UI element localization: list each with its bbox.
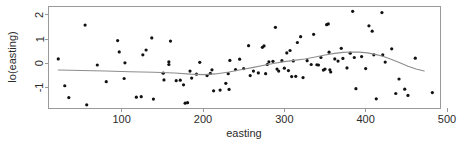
data-point <box>310 63 313 66</box>
data-point <box>323 67 326 70</box>
data-point <box>285 51 288 54</box>
data-point <box>274 26 277 29</box>
loess-smoothing-curve <box>58 52 424 75</box>
data-point <box>144 48 147 51</box>
data-point <box>375 97 378 100</box>
data-point <box>414 57 417 60</box>
data-point <box>67 96 70 99</box>
data-point <box>167 63 170 66</box>
data-point <box>249 74 252 77</box>
data-point <box>267 60 270 63</box>
y-tick-label: 0 <box>34 60 46 66</box>
data-point <box>198 61 201 64</box>
y-tick-label: -1 <box>34 83 46 93</box>
y-tick-label: 2 <box>34 12 46 18</box>
data-point <box>403 88 406 91</box>
data-point <box>306 59 309 62</box>
data-point <box>175 79 178 82</box>
data-point <box>123 77 126 80</box>
data-point <box>327 51 330 54</box>
data-point <box>283 67 286 70</box>
x-tick-label: 500 <box>438 113 456 125</box>
data-point <box>380 11 383 14</box>
data-point <box>85 103 88 106</box>
data-point <box>384 60 387 63</box>
data-point <box>406 94 409 97</box>
data-point <box>182 83 185 86</box>
data-point <box>141 53 144 56</box>
scatter-plot: 100200300400500 -1012 easting lo(easting… <box>0 0 462 143</box>
data-point <box>179 79 182 82</box>
data-point <box>390 47 393 50</box>
data-point <box>312 33 315 36</box>
data-point <box>210 68 213 71</box>
data-point <box>431 91 434 94</box>
data-point <box>341 57 344 60</box>
y-tick-label: 1 <box>34 36 46 42</box>
data-point <box>247 44 250 47</box>
data-point <box>152 97 155 100</box>
data-point <box>116 39 119 42</box>
data-point <box>123 61 126 64</box>
data-point <box>252 69 255 72</box>
data-point <box>296 41 299 44</box>
data-point <box>394 92 397 95</box>
data-point <box>317 63 320 66</box>
data-point <box>150 36 153 39</box>
data-point <box>353 56 356 59</box>
y-axis-ticks: -1012 <box>34 12 49 92</box>
x-tick-label: 300 <box>275 113 293 125</box>
x-tick-label: 100 <box>113 113 131 125</box>
x-axis-ticks: 100200300400500 <box>113 108 457 125</box>
data-point <box>169 39 172 42</box>
data-point <box>333 57 336 60</box>
data-point <box>371 30 374 33</box>
data-point <box>271 60 274 63</box>
chart-page: 100200300400500 -1012 easting lo(easting… <box>0 0 462 143</box>
data-point <box>327 22 330 25</box>
data-point <box>227 88 230 91</box>
data-point <box>190 76 193 79</box>
data-point <box>367 24 370 27</box>
y-axis-label: lo(easting) <box>6 31 18 82</box>
data-point <box>140 95 143 98</box>
data-points <box>57 10 434 107</box>
data-point <box>63 84 66 87</box>
data-point <box>83 24 86 27</box>
data-point <box>219 89 222 92</box>
data-point <box>277 69 280 72</box>
data-point <box>212 89 215 92</box>
data-point <box>397 77 400 80</box>
data-point <box>345 66 348 69</box>
data-point <box>105 80 108 83</box>
data-point <box>228 59 231 62</box>
x-axis-label: easting <box>226 127 261 139</box>
data-point <box>299 35 302 38</box>
data-point <box>135 96 138 99</box>
data-point <box>188 69 191 72</box>
data-point <box>364 67 367 70</box>
x-tick-label: 400 <box>356 113 374 125</box>
data-point <box>262 44 265 47</box>
data-point <box>264 72 267 75</box>
data-point <box>118 50 121 53</box>
data-point <box>354 87 357 90</box>
data-point <box>290 75 293 78</box>
data-point <box>162 78 165 81</box>
plot-frame <box>49 7 441 109</box>
data-point <box>96 63 99 66</box>
data-point <box>287 69 290 72</box>
data-point <box>329 70 332 73</box>
data-point <box>238 58 241 61</box>
data-point <box>186 101 189 104</box>
data-point <box>288 49 291 52</box>
data-point <box>340 47 343 50</box>
data-point <box>224 82 227 85</box>
data-point <box>57 57 60 60</box>
data-point <box>257 71 260 74</box>
data-point <box>294 75 297 78</box>
data-point <box>360 55 363 58</box>
x-tick-label: 200 <box>194 113 212 125</box>
data-point <box>351 10 354 13</box>
data-point <box>336 60 339 63</box>
